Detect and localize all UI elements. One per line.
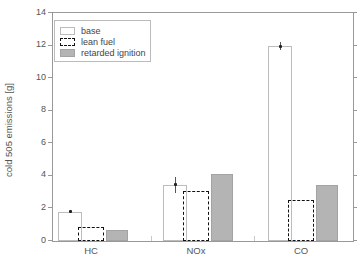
y-tick-label-12: 12 (16, 39, 46, 50)
error-marker-co (279, 45, 282, 48)
legend: base lean fuel retarded ignition (54, 20, 151, 62)
x-boundary-tick-0 (151, 236, 152, 241)
legend-swatch-base (60, 27, 75, 35)
bar-retarded-ignition-hc (106, 230, 128, 241)
y-tick-label-10: 10 (16, 72, 46, 83)
legend-item-base: base (60, 25, 150, 36)
bar-retarded-ignition-co (316, 185, 338, 241)
y-tick-2 (48, 207, 52, 208)
bar-lean-fuel-nox (183, 191, 209, 241)
y-tick-14 (48, 12, 52, 13)
bar-lean-fuel-co (288, 200, 314, 241)
y-tick-0 (48, 240, 52, 241)
y-tick-10 (353, 77, 357, 78)
error-marker-hc (69, 210, 72, 213)
bar-retarded-ignition-nox (211, 174, 233, 241)
y-tick-12 (48, 45, 52, 46)
legend-swatch-lean-fuel (60, 38, 75, 46)
error-marker-nox (174, 183, 177, 186)
y-tick-label-0: 0 (16, 235, 46, 246)
bar-lean-fuel-hc (78, 227, 104, 241)
x-category-label-hc: HC (61, 245, 121, 256)
y-tick-8 (48, 110, 52, 111)
x-category-label-nox: NOx (166, 245, 226, 256)
plot-area: base lean fuel retarded ignition HCNOxCO (52, 12, 354, 242)
y-axis-title: cold 505 emissions [g] (3, 75, 15, 185)
y-tick-14 (353, 12, 357, 13)
y-tick-6 (353, 142, 357, 143)
legend-item-retarded-ignition: retarded ignition (60, 47, 150, 58)
y-tick-2 (353, 207, 357, 208)
x-boundary-tick-1 (254, 236, 255, 241)
y-tick-10 (48, 77, 52, 78)
emissions-bar-chart: cold 505 emissions [g] base lean fuel re… (0, 0, 364, 264)
x-category-label-co: CO (271, 245, 331, 256)
legend-label-retarded-ignition: retarded ignition (81, 48, 146, 58)
y-tick-4 (48, 175, 52, 176)
y-tick-6 (48, 142, 52, 143)
y-tick-label-14: 14 (16, 7, 46, 18)
y-tick-label-4: 4 (16, 169, 46, 180)
y-tick-label-2: 2 (16, 202, 46, 213)
legend-label-base: base (81, 26, 101, 36)
y-tick-8 (353, 110, 357, 111)
legend-swatch-retarded-ignition (60, 49, 75, 57)
y-tick-0 (353, 240, 357, 241)
legend-item-lean-fuel: lean fuel (60, 36, 150, 47)
y-tick-label-8: 8 (16, 104, 46, 115)
y-tick-12 (353, 45, 357, 46)
legend-label-lean-fuel: lean fuel (81, 37, 115, 47)
y-tick-4 (353, 175, 357, 176)
y-tick-label-6: 6 (16, 137, 46, 148)
